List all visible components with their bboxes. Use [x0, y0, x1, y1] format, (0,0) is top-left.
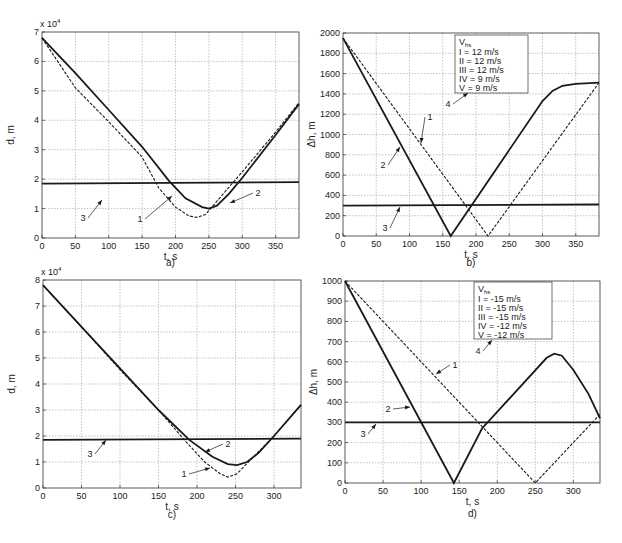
y-axis-ticks: 012345678 [35, 275, 46, 493]
plot-frame [42, 32, 299, 238]
y-tick-label: 1000 [322, 276, 342, 286]
y-tick-label: 2000 [320, 28, 340, 38]
y-tick-label: 5 [35, 353, 40, 363]
y-tick-label: 1200 [320, 109, 340, 119]
x-tick-label: 350 [568, 239, 583, 249]
x-tick-label: 50 [76, 491, 86, 501]
y-tick-label: 0 [335, 231, 340, 241]
curve-annotation-2: 2 [225, 439, 230, 449]
y-tick-label: 100 [327, 458, 342, 468]
legend: VhsI = 12 m/sII = 12 m/sIII = 12 m/sIV =… [455, 35, 528, 93]
x-tick-label: 100 [112, 491, 127, 501]
y-tick-label: 500 [327, 377, 342, 387]
y-tick-label: 1400 [320, 89, 340, 99]
curve-annotation-1: 1 [452, 360, 457, 370]
y-tick-label: 1600 [320, 69, 340, 79]
arrow-icon [420, 138, 424, 143]
legend: VhsI = -15 m/sII = -15 m/sIII = -15 m/sI… [474, 282, 552, 340]
grid [42, 32, 299, 238]
y-tick-label: 1800 [320, 48, 340, 58]
y-tick-label: 3 [35, 405, 40, 415]
curve-annotation-2: 2 [385, 404, 390, 414]
y-tick-label: 300 [327, 417, 342, 427]
x-tick-label: 250 [201, 241, 216, 251]
curve-annotation-2: 2 [380, 160, 385, 170]
x-tick-label: 200 [468, 239, 483, 249]
series-line-3 [43, 439, 301, 440]
y-tick-label: 400 [325, 190, 340, 200]
y-tick-label: 3 [34, 145, 39, 155]
curve-annotation-1: 1 [427, 112, 432, 122]
annotations: 123 [87, 439, 230, 479]
y-axis-label: d, m [6, 374, 17, 393]
y-tick-label: 6 [35, 327, 40, 337]
x-tick-label: 50 [70, 241, 80, 251]
y-tick-label: 1 [34, 204, 39, 214]
arrow-icon [101, 440, 106, 445]
x-tick-label: 250 [528, 486, 543, 496]
y-tick-label: 1 [35, 457, 40, 467]
y-tick-label: 0 [35, 483, 40, 493]
y-tick-label: 4 [35, 379, 40, 389]
curve-annotation-2: 2 [255, 188, 260, 198]
x-axis-ticks: 050100150200250300 [40, 485, 281, 501]
y-axis-label: Δh, m [306, 121, 317, 147]
x-tick-label: 300 [566, 486, 581, 496]
arrow-icon [436, 370, 441, 374]
y-axis-ticks: 01234567 [34, 27, 45, 243]
y-axis-ticks: 01002003004005006007008009001000 [322, 276, 348, 488]
curve-annotation-1: 1 [137, 214, 142, 224]
x-tick-label: 300 [235, 241, 250, 251]
x-tick-label: 150 [435, 239, 450, 249]
y-tick-label: 0 [337, 478, 342, 488]
panel-label: b) [467, 257, 476, 268]
y-tick-label: 2 [35, 431, 40, 441]
y-tick-label: 4 [34, 115, 39, 125]
arrow-icon [205, 467, 210, 471]
y-tick-label: 2 [34, 174, 39, 184]
x-tick-label: 250 [228, 491, 243, 501]
y-tick-label: 7 [34, 27, 39, 37]
curve-annotation-3: 3 [80, 213, 85, 223]
x-tick-label: 0 [340, 239, 345, 249]
curve-annotation-3: 3 [360, 429, 365, 439]
arrow-icon [396, 147, 400, 152]
x-tick-label: 200 [168, 241, 183, 251]
x-axis-ticks: 050100150200250300350 [39, 235, 283, 251]
y-tick-label: 700 [327, 337, 342, 347]
chart-panel-a: 05010015020025030035001234567x 104t, sd,… [5, 18, 299, 268]
grid [345, 281, 600, 483]
x-tick-label: 350 [268, 241, 283, 251]
y-tick-label: 600 [325, 170, 340, 180]
arrow-icon [396, 207, 400, 212]
x-tick-label: 0 [40, 491, 45, 501]
y-tick-label: 6 [34, 56, 39, 66]
x-axis-label: t, s [466, 496, 479, 507]
y-tick-label: 400 [327, 397, 342, 407]
x-tick-label: 150 [452, 486, 467, 496]
curve-annotation-4: 4 [475, 346, 480, 356]
y-tick-label: 8 [35, 275, 40, 285]
panel-label: d) [468, 508, 477, 519]
x-tick-label: 250 [502, 239, 517, 249]
arrow-icon [230, 199, 235, 203]
series-line-3 [343, 205, 599, 206]
x-tick-label: 300 [535, 239, 550, 249]
curve-annotation-4: 4 [445, 99, 450, 109]
x-tick-label: 0 [342, 486, 347, 496]
x-tick-label: 300 [267, 491, 282, 501]
y-axis-label: d, m [5, 125, 16, 144]
annotations: 123 [80, 188, 260, 224]
grid [43, 280, 301, 488]
y-multiplier: x 104 [41, 266, 62, 277]
y-tick-label: 1000 [320, 130, 340, 140]
x-tick-label: 0 [39, 241, 44, 251]
x-axis-ticks: 050100150200250300350 [340, 233, 583, 249]
x-tick-label: 100 [414, 486, 429, 496]
y-tick-label: 0 [34, 233, 39, 243]
curve-annotation-1: 1 [181, 469, 186, 479]
y-axis-ticks: 0200400600800100012001400160018002000 [320, 28, 346, 241]
x-tick-label: 150 [135, 241, 150, 251]
legend-entry: V = 9 m/s [459, 83, 498, 93]
y-tick-label: 5 [34, 86, 39, 96]
